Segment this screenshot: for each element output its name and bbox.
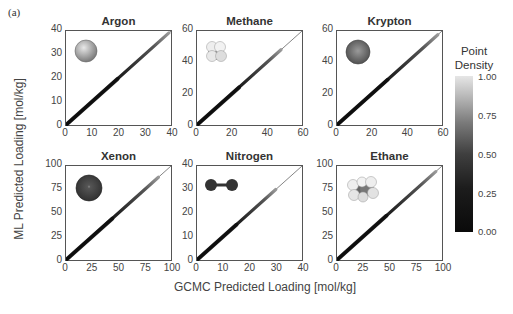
y-tick-label: 40 bbox=[171, 55, 193, 66]
x-tick-label: 20 bbox=[221, 127, 243, 138]
methane-molecule-icon bbox=[207, 42, 227, 62]
x-tick-label: 40 bbox=[256, 127, 278, 138]
y-tick-label: 20 bbox=[40, 71, 62, 82]
y-tick-label: 60 bbox=[171, 23, 193, 34]
scatter-plot bbox=[66, 166, 173, 262]
y-tick-label: 50 bbox=[311, 206, 333, 217]
x-tick-label: 75 bbox=[134, 262, 156, 273]
scatter-plot bbox=[337, 31, 444, 127]
x-tick-label: 100 bbox=[432, 262, 454, 273]
scatter-plot bbox=[197, 31, 304, 127]
panel-label: (a) bbox=[8, 6, 20, 18]
colorbar-title: Point Density bbox=[440, 44, 508, 72]
y-tick-label: 20 bbox=[171, 206, 193, 217]
plot-area bbox=[65, 165, 172, 261]
x-tick-label: 75 bbox=[405, 262, 427, 273]
plot-area bbox=[336, 30, 443, 126]
y-axis-label: ML Predicted Loading [mol/kg] bbox=[12, 74, 26, 244]
y-tick-label: 10 bbox=[40, 95, 62, 106]
ethane-molecule-icon bbox=[348, 177, 379, 203]
krypton-sphere-icon bbox=[346, 40, 370, 64]
y-tick-label: 75 bbox=[311, 182, 333, 193]
subplot-title: Methane bbox=[196, 15, 303, 27]
y-tick-label: 40 bbox=[171, 158, 193, 169]
x-tick-label: 10 bbox=[212, 262, 234, 273]
scatter-plot bbox=[66, 31, 173, 127]
nitrogen-molecule-icon bbox=[205, 179, 238, 191]
y-tick-label: 20 bbox=[311, 87, 333, 98]
y-tick-label: 100 bbox=[40, 158, 62, 169]
y-tick-label: 40 bbox=[40, 23, 62, 34]
x-tick-label: 25 bbox=[352, 262, 374, 273]
subplot-title: Argon bbox=[65, 15, 172, 27]
colorbar bbox=[455, 76, 473, 232]
y-tick-label: 25 bbox=[311, 230, 333, 241]
x-axis-label: GCMC Predicted Loading [mol/kg] bbox=[150, 280, 380, 294]
x-tick-label: 60 bbox=[432, 127, 454, 138]
x-tick-label: 20 bbox=[108, 127, 130, 138]
argon-sphere-icon bbox=[75, 40, 97, 62]
x-tick-label: 25 bbox=[81, 262, 103, 273]
x-tick-label: 40 bbox=[396, 127, 418, 138]
x-tick-label: 30 bbox=[265, 262, 287, 273]
colorbar-title-line1: Point bbox=[440, 44, 508, 58]
y-tick-label: 75 bbox=[40, 182, 62, 193]
plot-area bbox=[196, 30, 303, 126]
colorbar-title-line2: Density bbox=[440, 58, 508, 72]
subplot-title: Nitrogen bbox=[196, 150, 303, 162]
xenon-sphere-icon bbox=[76, 175, 102, 201]
x-tick-label: 50 bbox=[379, 262, 401, 273]
y-tick-label: 10 bbox=[171, 230, 193, 241]
x-tick-label: 50 bbox=[108, 262, 130, 273]
x-tick-label: 30 bbox=[134, 127, 156, 138]
scatter-plot bbox=[197, 166, 304, 262]
x-tick-label: 20 bbox=[361, 127, 383, 138]
y-tick-label: 40 bbox=[311, 55, 333, 66]
colorbar-tick: 1.00 bbox=[478, 71, 497, 82]
plot-area bbox=[336, 165, 443, 261]
scatter-plot bbox=[337, 166, 444, 262]
x-tick-label: 0 bbox=[185, 262, 207, 273]
y-tick-label: 25 bbox=[40, 230, 62, 241]
plot-area bbox=[196, 165, 303, 261]
colorbar-tick: 0.50 bbox=[478, 149, 497, 160]
y-tick-label: 50 bbox=[40, 206, 62, 217]
subplot-title: Ethane bbox=[336, 150, 443, 162]
y-tick-label: 30 bbox=[171, 182, 193, 193]
x-tick-label: 20 bbox=[239, 262, 261, 273]
x-tick-label: 0 bbox=[325, 262, 347, 273]
y-tick-label: 60 bbox=[311, 23, 333, 34]
x-tick-label: 0 bbox=[54, 262, 76, 273]
x-tick-label: 0 bbox=[325, 127, 347, 138]
subplot-title: Krypton bbox=[336, 15, 443, 27]
y-tick-label: 100 bbox=[311, 158, 333, 169]
y-tick-label: 30 bbox=[40, 47, 62, 58]
y-tick-label: 20 bbox=[171, 87, 193, 98]
x-tick-label: 10 bbox=[81, 127, 103, 138]
subplot-title: Xenon bbox=[65, 150, 172, 162]
x-tick-label: 0 bbox=[185, 127, 207, 138]
x-tick-label: 0 bbox=[54, 127, 76, 138]
plot-area bbox=[65, 30, 172, 126]
colorbar-tick: 0.75 bbox=[478, 110, 497, 121]
colorbar-tick: 0.00 bbox=[478, 226, 497, 237]
colorbar-tick: 0.25 bbox=[478, 188, 497, 199]
